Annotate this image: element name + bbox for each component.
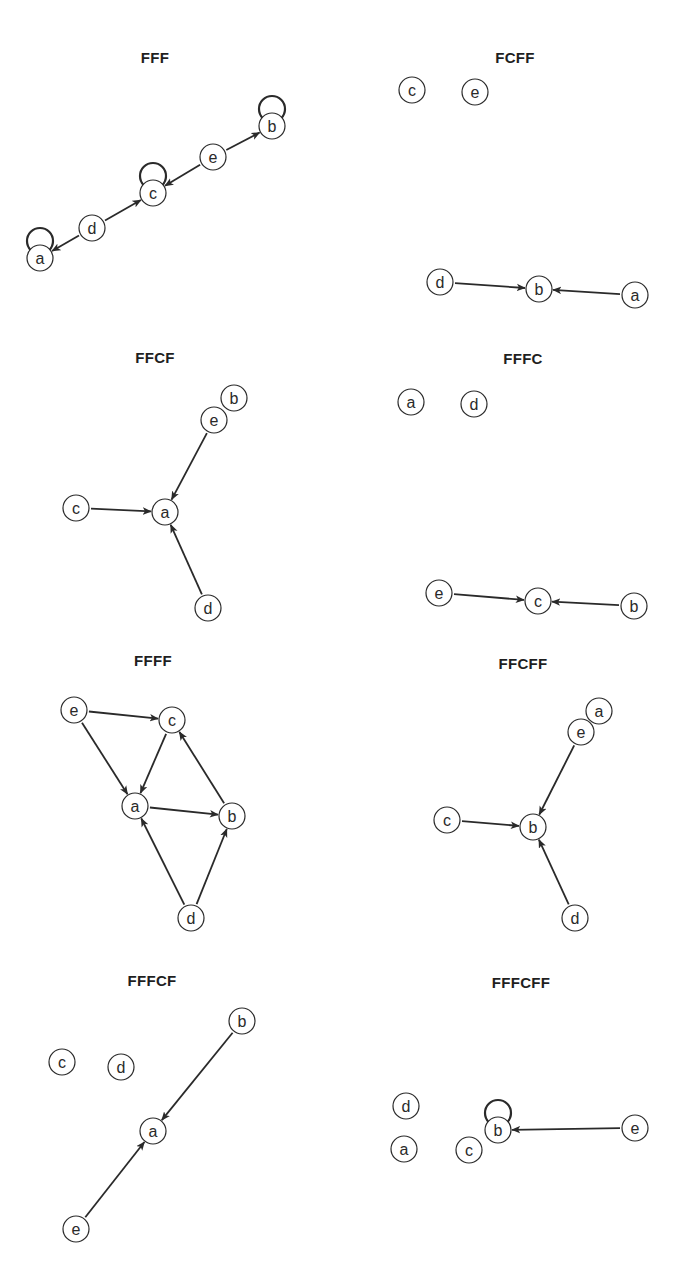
node-label: e (210, 412, 219, 429)
graph-panel-fcff: cedba (399, 77, 648, 308)
node-label: a (407, 394, 416, 411)
node-label: e (631, 1120, 640, 1137)
edge-b-to-c (179, 732, 224, 803)
node-a: a (27, 245, 53, 271)
node-b: b (520, 814, 546, 840)
node-c: c (140, 180, 166, 206)
node-label: e (577, 724, 586, 741)
node-label: b (529, 819, 538, 836)
node-b: b (229, 1008, 255, 1034)
edge-e-to-a (85, 1142, 144, 1217)
node-e: e (201, 407, 227, 433)
node-label: e (435, 585, 444, 602)
edge-b-to-a (162, 1033, 233, 1120)
node-e: e (462, 79, 488, 105)
edge-d-to-b (539, 840, 569, 905)
node-label: c (72, 500, 80, 517)
node-e: e (61, 697, 87, 723)
node-label: a (161, 504, 170, 521)
graph-panel-fff: adceb (27, 96, 285, 271)
graph-panel-fffcff: dbeac (391, 1093, 648, 1163)
edge-d-to-b (455, 283, 525, 288)
node-c: c (456, 1137, 482, 1163)
node-c: c (434, 807, 460, 833)
node-label: e (70, 702, 79, 719)
edge-e-to-a (82, 723, 128, 795)
graph-panel-fffcf: bcdae (49, 1008, 255, 1242)
node-a: a (622, 282, 648, 308)
edge-e-to-b (226, 133, 259, 151)
edge-d-to-a (171, 525, 202, 595)
node-label: d (117, 1059, 126, 1076)
node-d: d (178, 905, 204, 931)
edge-e-to-c (165, 165, 200, 186)
node-label: c (58, 1054, 66, 1071)
node-a: a (586, 698, 612, 724)
node-d: d (108, 1054, 134, 1080)
node-label: d (402, 1098, 411, 1115)
node-label: d (204, 600, 213, 617)
node-e: e (200, 144, 226, 170)
node-a: a (122, 793, 148, 819)
node-label: a (400, 1141, 409, 1158)
graph-panel-ffcff: aecbd (434, 698, 612, 931)
panel-title-fffc: FFFC (503, 350, 543, 367)
edge-d-to-c (105, 200, 141, 221)
node-a: a (152, 499, 178, 525)
edge-a-to-b (553, 290, 620, 294)
node-d: d (461, 391, 487, 417)
node-label: e (72, 1221, 81, 1238)
node-b: b (485, 1117, 511, 1143)
node-label: d (436, 274, 445, 291)
node-c: c (399, 77, 425, 103)
node-c: c (525, 588, 551, 614)
node-b: b (221, 385, 247, 411)
panel-title-fffcf: FFFCF (128, 972, 177, 989)
panel-title-fff: FFF (141, 49, 169, 66)
node-e: e (622, 1115, 648, 1141)
edge-e-to-b (539, 745, 574, 814)
edge-a-to-b (150, 808, 218, 815)
node-label: b (630, 598, 639, 615)
node-label: c (465, 1142, 473, 1159)
node-label: a (149, 1123, 158, 1140)
edge-d-to-a (52, 236, 79, 252)
node-e: e (426, 580, 452, 606)
graph-panel-fffc: adecb (398, 389, 647, 619)
node-label: a (131, 798, 140, 815)
node-label: b (238, 1013, 247, 1030)
node-d: d (393, 1093, 419, 1119)
edge-d-to-a (141, 819, 184, 905)
node-label: c (408, 82, 416, 99)
graph-panel-ffcf: becad (63, 385, 247, 621)
node-label: a (36, 250, 45, 267)
node-d: d (427, 269, 453, 295)
panel-title-fcff: FCFF (495, 49, 535, 66)
edge-c-to-b (462, 821, 519, 826)
node-label: d (470, 396, 479, 413)
edge-e-to-a (172, 433, 207, 499)
graph-figure: adcebcedbabecadadecbecabdaecbdbcdaedbeac… (0, 0, 687, 1285)
node-e: e (568, 719, 594, 745)
node-c: c (63, 495, 89, 521)
edge-e-to-b (512, 1128, 620, 1130)
node-a: a (391, 1136, 417, 1162)
node-d: d (79, 215, 105, 241)
node-b: b (219, 803, 245, 829)
graph-panel-ffff: ecabd (61, 697, 245, 931)
node-label: d (88, 220, 97, 237)
edge-c-to-a (91, 509, 151, 512)
node-label: c (168, 712, 176, 729)
node-c: c (49, 1049, 75, 1075)
node-label: a (631, 287, 640, 304)
node-label: c (149, 185, 157, 202)
node-c: c (159, 707, 185, 733)
node-a: a (398, 389, 424, 415)
node-label: e (471, 84, 480, 101)
node-d: d (562, 905, 588, 931)
edge-b-to-c (552, 602, 619, 606)
node-label: b (228, 808, 237, 825)
panel-title-ffcff: FFCFF (499, 655, 548, 672)
node-label: d (187, 910, 196, 927)
node-label: d (571, 910, 580, 927)
